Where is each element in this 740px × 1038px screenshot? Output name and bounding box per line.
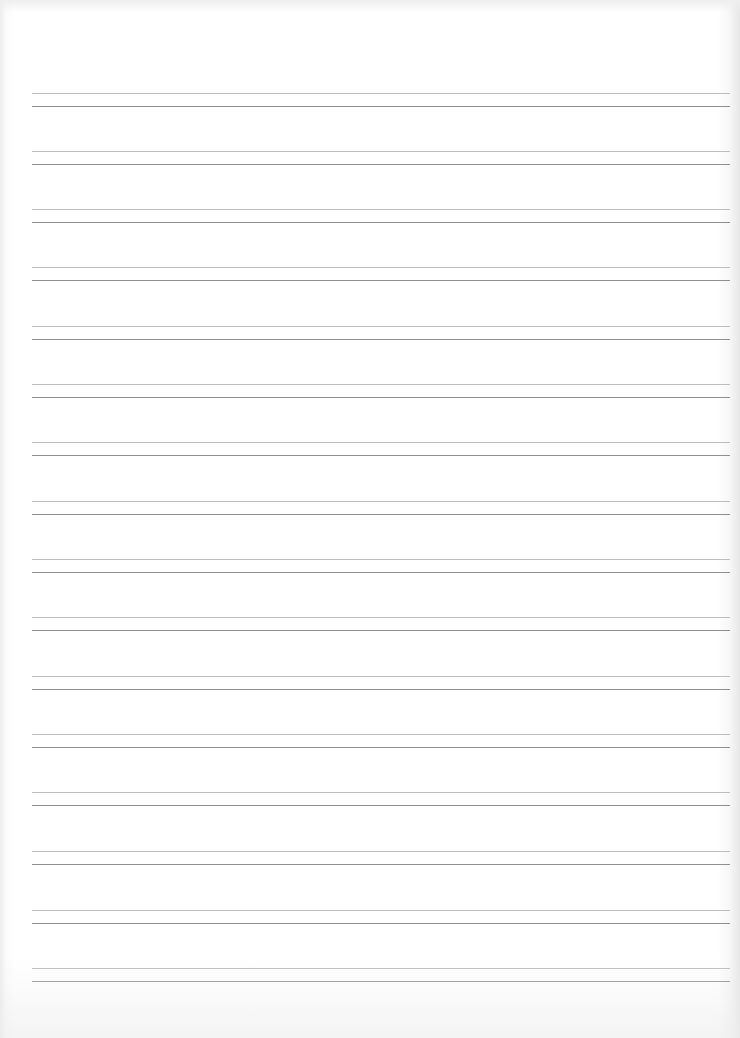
rule-line-top xyxy=(32,792,730,793)
rule-pair xyxy=(32,501,730,516)
rule-line-bottom xyxy=(32,164,730,165)
rule-line-bottom xyxy=(32,923,730,924)
rule-pair xyxy=(32,151,730,166)
rule-pair xyxy=(32,267,730,282)
rule-pair xyxy=(32,617,730,632)
rule-line-bottom xyxy=(32,339,730,340)
rule-line-top xyxy=(32,968,730,969)
rule-line-top xyxy=(32,326,730,327)
rule-pair xyxy=(32,792,730,807)
rule-line-top xyxy=(32,151,730,152)
rule-pair xyxy=(32,968,730,983)
rule-line-top xyxy=(32,209,730,210)
rule-line-bottom xyxy=(32,106,730,107)
rule-line-bottom xyxy=(32,805,730,806)
rule-line-top xyxy=(32,734,730,735)
rule-pair xyxy=(32,559,730,574)
rule-line-top xyxy=(32,501,730,502)
rule-line-top xyxy=(32,93,730,94)
rule-line-bottom xyxy=(32,864,730,865)
rule-line-bottom xyxy=(32,455,730,456)
rule-line-bottom xyxy=(32,514,730,515)
rule-line-bottom xyxy=(32,280,730,281)
rule-pair xyxy=(32,676,730,691)
rule-pair xyxy=(32,910,730,925)
rule-line-top xyxy=(32,384,730,385)
rule-line-top xyxy=(32,442,730,443)
rule-line-bottom xyxy=(32,630,730,631)
rule-pair xyxy=(32,442,730,457)
rule-line-bottom xyxy=(32,222,730,223)
rule-line-bottom xyxy=(32,689,730,690)
lined-paper-sheet xyxy=(0,0,740,1038)
scan-edge-shadow xyxy=(0,0,740,12)
rule-line-bottom xyxy=(32,572,730,573)
rule-pair xyxy=(32,93,730,108)
rule-line-top xyxy=(32,676,730,677)
rule-pair xyxy=(32,209,730,224)
rule-pair xyxy=(32,326,730,341)
rule-line-bottom xyxy=(32,747,730,748)
rule-line-top xyxy=(32,617,730,618)
rule-pair xyxy=(32,851,730,866)
rule-line-top xyxy=(32,559,730,560)
rule-line-bottom xyxy=(32,397,730,398)
rule-pair xyxy=(32,734,730,749)
rule-line-top xyxy=(32,267,730,268)
rule-line-top xyxy=(32,910,730,911)
rule-pair xyxy=(32,384,730,399)
rule-line-top xyxy=(32,851,730,852)
rule-line-bottom xyxy=(32,981,730,982)
